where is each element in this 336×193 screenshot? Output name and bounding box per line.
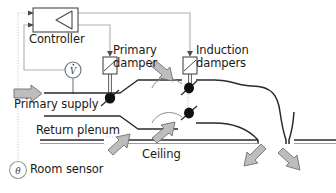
flow-meter-symbol: V <box>70 66 77 76</box>
induction-damper-blade-lower[interactable] <box>181 106 197 120</box>
induction-damper-blade-upper[interactable] <box>181 81 197 95</box>
return-air-arrow <box>108 134 130 155</box>
label-primary-damper-line2: damper <box>113 57 157 70</box>
label-induction-dampers-line1: Induction <box>196 44 249 57</box>
controller-box[interactable] <box>28 8 78 32</box>
discharge-arrow-left <box>244 144 266 166</box>
label-induction-dampers: Induction dampers <box>196 44 249 70</box>
induced-air-paths <box>152 78 182 123</box>
flow-meter[interactable]: V <box>65 62 81 94</box>
discharge-arrow-right <box>278 148 300 170</box>
room-sensor-symbol: θ <box>15 166 21 176</box>
figure-canvas: V <box>0 0 336 193</box>
label-controller: Controller <box>29 33 85 45</box>
discharge-duct <box>252 86 336 144</box>
label-primary-supply: Primary supply <box>14 98 99 110</box>
induction-damper-signal-arrow <box>187 51 193 57</box>
induction-damper-actuator[interactable] <box>183 51 197 84</box>
ceiling-line <box>40 140 258 144</box>
room-sensor[interactable]: θ <box>10 162 27 179</box>
label-primary-damper: Primary damper <box>113 44 157 70</box>
label-room-sensor: Room sensor <box>30 163 103 175</box>
label-ceiling: Ceiling <box>142 148 181 160</box>
flow-meter-dot <box>73 64 75 66</box>
label-return-plenum: Return plenum <box>36 124 120 136</box>
label-induction-dampers-line2: dampers <box>196 57 249 70</box>
label-primary-damper-line1: Primary <box>113 44 157 57</box>
